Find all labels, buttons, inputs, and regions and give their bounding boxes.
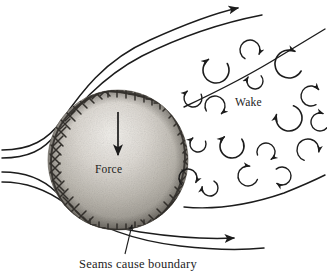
wake-vortex-arrow bbox=[257, 143, 275, 159]
wake-vortex-arrow bbox=[202, 181, 218, 196]
wake-vortex-arrow bbox=[297, 139, 319, 160]
wake-vortex-arrow bbox=[220, 137, 244, 158]
wake-vortex-arrow bbox=[238, 166, 257, 186]
wake-vortex-arrow bbox=[203, 59, 229, 83]
wake-vortex-arrow bbox=[301, 86, 319, 106]
wake-vortex-arrow bbox=[276, 106, 302, 131]
wake-vortex-arrow bbox=[276, 167, 291, 185]
wake-vortex-arrow bbox=[247, 76, 263, 89]
wake-vortex-arrow bbox=[190, 138, 206, 152]
wake-boundary-lower bbox=[184, 175, 325, 208]
wake-label: Wake bbox=[235, 96, 262, 108]
wake-vortex-group bbox=[179, 40, 327, 196]
force-label: Force bbox=[95, 163, 122, 175]
baseball-airflow-diagram bbox=[0, 0, 327, 273]
wake-vortex-arrow bbox=[275, 50, 301, 78]
figure-container: Force Wake Seams cause boundary bbox=[0, 0, 327, 273]
wake-vortex-arrow bbox=[240, 40, 260, 59]
wake-vortex-arrow bbox=[205, 96, 225, 114]
figure-caption: Seams cause boundary bbox=[79, 257, 197, 272]
wake-vortex-arrow bbox=[311, 113, 327, 131]
